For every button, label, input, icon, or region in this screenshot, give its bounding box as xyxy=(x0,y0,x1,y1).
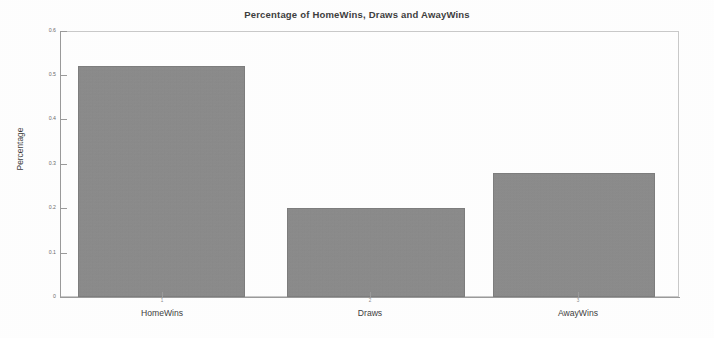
y-tick-label-wrap: 0.4 xyxy=(34,115,56,123)
x-category-label-draws: Draws xyxy=(290,308,450,318)
y-tick-label: 0.4 xyxy=(34,115,56,121)
x-tick-mark xyxy=(370,292,371,297)
bar-homewins[interactable] xyxy=(78,66,245,297)
y-axis-label: Percentage xyxy=(15,109,25,189)
y-tick-label: 0.6 xyxy=(34,27,56,33)
y-tick-label-wrap: 0.6 xyxy=(34,27,56,35)
y-tick-mark xyxy=(61,164,67,165)
y-tick-label: 0.5 xyxy=(34,71,56,77)
bar-draws[interactable] xyxy=(287,208,465,297)
x-tick-mark xyxy=(578,292,579,297)
y-tick-mark xyxy=(61,208,67,209)
y-tick-mark xyxy=(61,297,67,298)
y-tick-label: 0.3 xyxy=(34,160,56,166)
x-category-label-homewins: HomeWins xyxy=(82,308,242,318)
y-tick-label-wrap: 0 xyxy=(34,293,56,301)
x-tick-number: 3 xyxy=(568,298,588,303)
y-tick-mark xyxy=(61,119,67,120)
y-tick-mark xyxy=(61,75,67,76)
y-tick-label-wrap: 0.3 xyxy=(34,160,56,168)
chart-title: Percentage of HomeWins, Draws and AwayWi… xyxy=(0,9,714,20)
y-tick-label: 0.2 xyxy=(34,204,56,210)
x-tick-number: 1 xyxy=(152,298,172,303)
y-tick-label-wrap: 0.1 xyxy=(34,249,56,257)
bar-chart-figure: Percentage of HomeWins, Draws and AwayWi… xyxy=(0,0,714,338)
y-tick-label-wrap: 0.5 xyxy=(34,71,56,79)
x-tick-mark xyxy=(162,292,163,297)
bar-awaywins[interactable] xyxy=(493,173,655,297)
y-tick-label: 0.1 xyxy=(34,249,56,255)
y-tick-mark xyxy=(61,31,67,32)
x-category-label-awaywins: AwayWins xyxy=(498,308,658,318)
y-tick-mark xyxy=(61,253,67,254)
y-tick-label-wrap: 0.2 xyxy=(34,204,56,212)
x-tick-number: 2 xyxy=(360,298,380,303)
y-tick-label: 0 xyxy=(34,293,56,299)
